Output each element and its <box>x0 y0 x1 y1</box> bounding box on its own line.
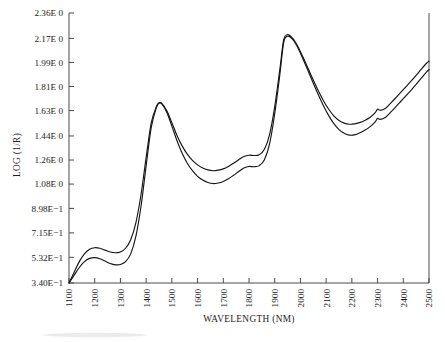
y-tick-label: 2.36E 0 <box>34 8 63 18</box>
x-tick-label: 2100 <box>322 289 332 308</box>
x-tick-label: 1900 <box>270 289 280 308</box>
y-tick-label: 1.81E 0 <box>34 82 63 92</box>
x-tick-label: 2300 <box>373 289 383 308</box>
spectroscopy-figure: 3.40E−15.32E−17.15E−18.98E−11.08E 01.26E… <box>0 0 445 342</box>
x-tick-label: 1400 <box>142 289 152 308</box>
y-tick-label: 3.40E−1 <box>32 278 64 288</box>
y-axis-ticks: 3.40E−15.32E−17.15E−18.98E−11.08E 01.26E… <box>32 8 74 288</box>
x-tick-label: 1600 <box>193 289 203 308</box>
x-tick-label: 1500 <box>167 289 177 308</box>
x-tick-label: 2200 <box>347 289 357 308</box>
nir-spectrum-chart: 3.40E−15.32E−17.15E−18.98E−11.08E 01.26E… <box>0 0 445 342</box>
y-tick-label: 1.44E 0 <box>34 131 63 141</box>
axis-frame <box>69 13 429 283</box>
x-tick-label: 2500 <box>424 289 434 308</box>
x-tick-label: 2400 <box>399 289 409 308</box>
x-tick-label: 2000 <box>296 289 306 308</box>
x-tick-label: 1700 <box>219 289 229 308</box>
spectrum-curves <box>69 35 429 283</box>
x-tick-label: 1300 <box>116 289 126 308</box>
plot-frame <box>69 13 429 283</box>
y-tick-label: 1.99E 0 <box>34 58 63 68</box>
spectrum-upper <box>69 35 429 283</box>
y-tick-label: 1.63E 0 <box>34 106 63 116</box>
y-axis-title: LOG (1/R) <box>12 133 23 177</box>
x-tick-label: 1800 <box>244 289 254 308</box>
y-tick-label: 1.08E 0 <box>34 179 63 189</box>
y-tick-label: 2.17E 0 <box>34 34 63 44</box>
x-tick-label: 1100 <box>64 289 74 307</box>
x-tick-label: 1200 <box>90 289 100 308</box>
y-tick-label: 5.32E−1 <box>32 253 64 263</box>
y-tick-label: 7.15E−1 <box>32 228 64 238</box>
x-axis-ticks: 1100120013001400150016001700180019002000… <box>64 278 434 307</box>
spectrum-lower <box>69 36 429 283</box>
y-tick-label: 8.98E−1 <box>32 204 64 214</box>
x-axis-title: WAVELENGTH (NM) <box>203 314 295 325</box>
scan-artifact <box>43 333 147 337</box>
y-tick-label: 1.26E 0 <box>34 155 63 165</box>
